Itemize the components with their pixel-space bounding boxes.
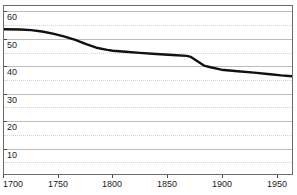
x-tick-mark (277, 175, 278, 178)
x-tick-mark (222, 175, 223, 178)
series-line-1 (4, 29, 292, 76)
x-tick-label: 1700 (3, 179, 23, 190)
plot-area: 102030405060 (3, 5, 293, 175)
x-tick-label: 1850 (157, 179, 177, 190)
x-tick-label: 1900 (212, 179, 232, 190)
chart-figure: 102030405060 170017501800185019001950 (0, 0, 297, 195)
x-tick-label: 1800 (102, 179, 122, 190)
x-tick-mark (3, 175, 4, 178)
x-axis: 170017501800185019001950 (3, 175, 293, 195)
series-line-chart (4, 6, 292, 174)
x-tick-mark (58, 175, 59, 178)
x-tick-mark (167, 175, 168, 178)
x-tick-mark (112, 175, 113, 178)
x-tick-label: 1950 (267, 179, 287, 190)
x-tick-label: 1750 (48, 179, 68, 190)
